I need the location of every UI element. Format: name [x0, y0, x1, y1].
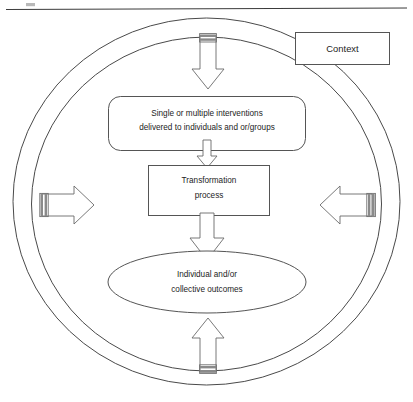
outcomes-ellipse — [108, 251, 306, 313]
header-rule — [6, 8, 407, 10]
interventions-line-2: delivered to individuals and or/groups — [139, 123, 275, 132]
figure-container: Context Single or multiple interventions… — [0, 0, 413, 402]
context-arrow-top — [192, 34, 224, 89]
outcomes-line-1: Individual and/or — [177, 270, 237, 279]
outcomes-line-2: collective outcomes — [171, 285, 242, 294]
context-arrow-right — [320, 186, 375, 224]
diagram-canvas: Context Single or multiple interventions… — [0, 0, 413, 402]
context-arrow-bottom — [192, 318, 224, 373]
scan-speck — [26, 3, 35, 6]
transformation-line-1: Transformation — [182, 176, 237, 185]
context-arrow-left — [40, 186, 94, 224]
context-label: Context — [326, 43, 359, 54]
interventions-line-1: Single or multiple interventions — [151, 109, 263, 118]
transformation-line-2: process — [195, 191, 224, 200]
